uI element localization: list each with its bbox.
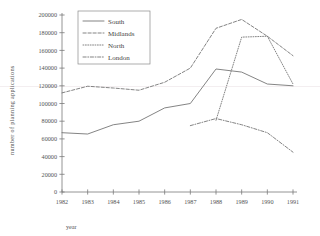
y-axis-title: number of planning applications: [8, 65, 15, 155]
y-tick-label: 0: [54, 188, 57, 195]
line-chart: 0200004000060000800001000001200001400001…: [0, 0, 320, 236]
x-tick-label: 1990: [261, 198, 273, 205]
y-tick-label: 20000: [42, 171, 57, 178]
x-tick-label: 1984: [107, 198, 119, 205]
legend-label-midlands: Midlands: [108, 30, 135, 38]
x-tick-label: 1989: [235, 198, 247, 205]
y-tick-label: 140000: [38, 64, 57, 71]
x-tick-label: 1986: [158, 198, 170, 205]
y-tick-label: 180000: [38, 29, 57, 36]
chart-legend: SouthMidlandsNorthLondon: [78, 11, 150, 64]
y-tick-label: 60000: [42, 135, 57, 142]
chart-container: 0200004000060000800001000001200001400001…: [0, 0, 320, 236]
x-axis-title: year: [66, 223, 77, 230]
y-tick-label: 40000: [42, 153, 57, 160]
x-tick-label: 1988: [210, 198, 222, 205]
x-tick-label: 1987: [184, 198, 196, 205]
x-tick-label: 1982: [56, 198, 68, 205]
y-tick-label: 100000: [38, 100, 57, 107]
legend-label-london: London: [108, 54, 130, 62]
y-tick-label: 200000: [38, 11, 57, 18]
x-tick-label: 1985: [133, 198, 145, 205]
x-tick-label: 1991: [287, 198, 299, 205]
y-tick-label: 160000: [38, 47, 57, 54]
y-tick-label: 120000: [38, 82, 57, 89]
x-tick-label: 1983: [81, 198, 93, 205]
legend-label-south: South: [108, 18, 125, 26]
y-tick-label: 80000: [42, 117, 57, 124]
legend-label-north: North: [108, 42, 125, 50]
